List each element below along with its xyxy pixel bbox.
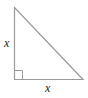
right-triangle (15, 8, 84, 80)
right-angle-marker (15, 71, 23, 80)
bottom-leg-label: x (44, 81, 51, 95)
triangle-diagram: x x (0, 0, 88, 98)
left-leg-label: x (3, 36, 10, 50)
